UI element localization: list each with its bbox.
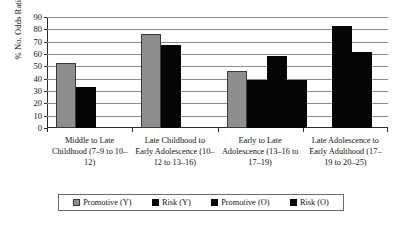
- bar: [56, 63, 76, 128]
- legend-label: Risk (Y): [162, 198, 191, 207]
- bar-group: [47, 17, 132, 128]
- y-tick-label: 60: [22, 49, 42, 59]
- legend-label: Risk (O): [300, 198, 329, 207]
- legend-swatch-icon: [152, 199, 159, 206]
- x-axis-label-3: Early to Late Adolescence (13–16 to 17–1…: [218, 135, 303, 191]
- y-tick-label: 20: [22, 98, 42, 108]
- bar: [332, 26, 352, 128]
- legend-item-3[interactable]: Promotive (O): [211, 198, 269, 207]
- bar-group: [218, 17, 303, 128]
- legend-label: Promotive (Y): [83, 198, 131, 207]
- legend-label: Promotive (O): [221, 198, 269, 207]
- plot-area: 9080706050403020100: [47, 17, 388, 128]
- x-tick-mark: [303, 128, 304, 132]
- y-tick-label: 10: [22, 111, 42, 121]
- legend-item-2[interactable]: Risk (Y): [152, 198, 191, 207]
- bar-series-container: [47, 17, 388, 128]
- y-tick-label: 30: [22, 86, 42, 96]
- bar: [247, 80, 267, 128]
- x-axis-labels: Middle to Late Childhood (7–9 to 10–12)L…: [47, 135, 388, 191]
- y-tick-label: 50: [22, 61, 42, 71]
- chart-legend: Promotive (Y)Risk (Y)Promotive (O)Risk (…: [58, 194, 344, 211]
- y-tick-label: 80: [22, 24, 42, 34]
- x-tick-mark: [47, 128, 48, 132]
- legend-item-4[interactable]: Risk (O): [290, 198, 329, 207]
- x-tick-mark: [132, 128, 133, 132]
- legend-swatch-icon: [211, 199, 218, 206]
- x-axis-label-2: Late Childhood to Early Adolescence (10–…: [132, 135, 217, 191]
- bar: [267, 56, 287, 128]
- bar-chart-figure: % No. Odds Ratios >2 9080706050403020100…: [0, 0, 398, 229]
- y-tick-label: 70: [22, 37, 42, 47]
- bar: [141, 34, 161, 128]
- x-axis-label-1: Middle to Late Childhood (7–9 to 10–12): [47, 135, 132, 191]
- x-axis-label-4: Late Adolescence to Early Adulthood (17–…: [303, 135, 388, 191]
- bar: [352, 52, 372, 128]
- bar: [76, 87, 96, 128]
- y-tick-label: 0: [22, 123, 42, 133]
- bar: [227, 71, 247, 128]
- x-tick-mark: [218, 128, 219, 132]
- bar: [161, 45, 181, 128]
- bar-group: [132, 17, 217, 128]
- legend-swatch-icon: [290, 199, 297, 206]
- bar-group: [303, 17, 388, 128]
- legend-item-1[interactable]: Promotive (Y): [73, 198, 131, 207]
- y-tick-label: 90: [22, 12, 42, 22]
- legend-swatch-icon: [73, 199, 80, 206]
- y-tick-label: 40: [22, 74, 42, 84]
- x-tick-mark: [387, 128, 388, 132]
